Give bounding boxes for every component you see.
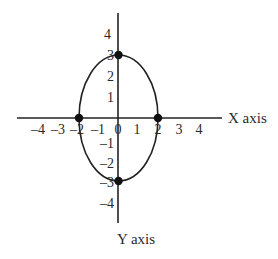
y-tick-label: –2 [99, 156, 114, 171]
y-axis-title: Y axis [117, 231, 155, 247]
x-tick-label: 1 [134, 122, 141, 137]
y-tick-label: –4 [99, 196, 114, 211]
y-tick-label: –1 [99, 136, 114, 151]
y-tick-label: –3 [99, 175, 114, 190]
x-tick-label: 4 [196, 122, 203, 137]
x-tick-label: 3 [176, 122, 183, 137]
point-0-neg3 [114, 177, 122, 185]
ellipse-diagram: –4 –3 –2 –1 0 1 2 3 4 4 3 2 1 –1 –2 –3 –… [0, 0, 278, 259]
y-tick-label: 4 [104, 27, 111, 42]
y-tick-label: 1 [107, 90, 114, 105]
x-tick-label: 2 [155, 122, 162, 137]
diagram-svg: –4 –3 –2 –1 0 1 2 3 4 4 3 2 1 –1 –2 –3 –… [0, 0, 278, 259]
x-tick-label: –1 [90, 122, 105, 137]
x-tick-label: –2 [69, 122, 84, 137]
point-0-3 [114, 51, 122, 59]
point-2-0 [154, 114, 162, 122]
x-tick-label: –3 [50, 122, 65, 137]
point-neg2-0 [75, 114, 83, 122]
x-axis-title: X axis [228, 110, 267, 126]
y-tick-label: 3 [107, 48, 114, 63]
x-tick-label: 0 [115, 122, 122, 137]
y-tick-label: 2 [107, 69, 114, 84]
x-tick-label: –4 [30, 122, 45, 137]
